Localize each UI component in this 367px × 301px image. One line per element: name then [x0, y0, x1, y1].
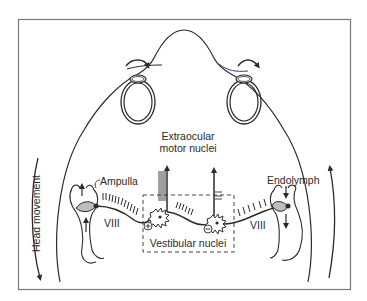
left-eye-rotation-arrow-icon — [126, 60, 148, 66]
head-movement-label: Head movement — [30, 175, 42, 252]
right-head-movement-arrow-icon — [329, 168, 334, 278]
extraocular-label-line2: motor nuclei — [159, 142, 216, 154]
commissural-axon — [167, 212, 212, 225]
inhibitory-neuron — [204, 214, 226, 234]
ampulla-label: Ampulla — [100, 175, 138, 187]
figure-frame — [19, 20, 351, 290]
excitatory-neuron — [144, 208, 169, 230]
vestibular-nuclei-label: Vestibular nuclei — [150, 237, 226, 249]
right-nerve-firing-ticks — [238, 199, 266, 216]
right-eye — [227, 75, 261, 124]
right-semicircular-canal — [270, 185, 302, 260]
nerve-viii-left-label: VIII — [104, 217, 120, 229]
mid-firing-ticks — [176, 202, 193, 215]
right-eye-rotation-arrow-icon — [238, 60, 258, 66]
left-semicircular-canal — [70, 185, 104, 263]
left-eye — [121, 75, 155, 124]
high-firing-ticks — [158, 172, 166, 200]
endolymph-label: Endolymph — [267, 174, 320, 186]
extraocular-label-line1: Extraocular — [161, 130, 214, 142]
nerve-viii-right-label: VIII — [250, 219, 266, 231]
vor-diagram: Extraocular motor nuclei Ampulla Endolym… — [0, 0, 367, 301]
